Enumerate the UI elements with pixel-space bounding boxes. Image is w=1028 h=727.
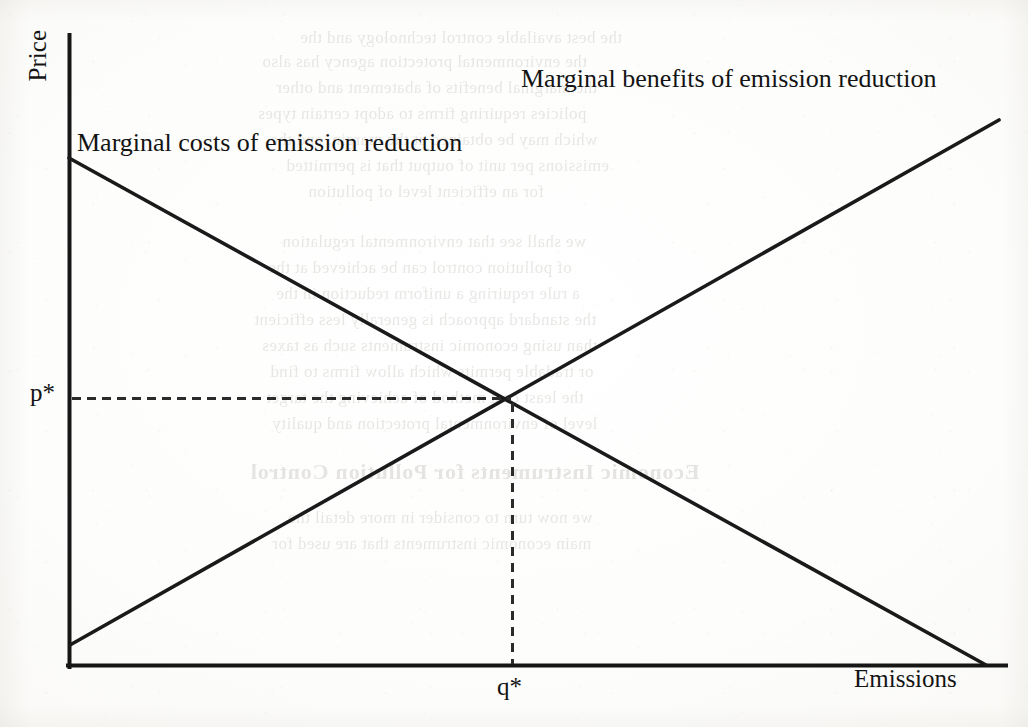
marginal-benefits-curve bbox=[70, 120, 999, 645]
marginal-costs-label: Marginal costs of emission reduction bbox=[77, 128, 462, 158]
scanned-figure-page: the best available control technology an… bbox=[0, 0, 1028, 727]
x-axis-label: Emissions bbox=[854, 665, 957, 693]
equilibrium-price-tick-label: p* bbox=[30, 379, 55, 407]
equilibrium-quantity-tick-label: q* bbox=[497, 673, 522, 701]
marginal-benefits-label: Marginal benefits of emission reduction bbox=[521, 64, 936, 94]
chart-plot-area bbox=[0, 0, 1028, 727]
marginal-costs-curve bbox=[69, 158, 986, 665]
y-axis-label: Price bbox=[24, 30, 52, 81]
